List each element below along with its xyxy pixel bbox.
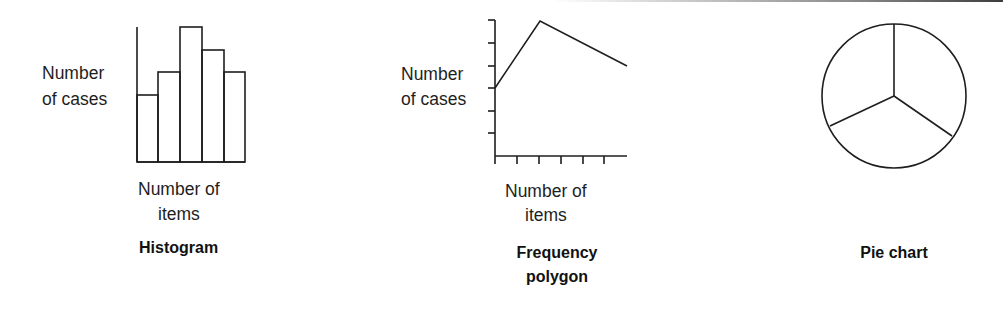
histogram-ylabel-line2: of cases	[42, 87, 107, 112]
polygon-y-ticks	[488, 20, 495, 133]
histogram-xlabel-line1: Number of	[138, 177, 220, 202]
histogram-bar-2	[158, 72, 180, 162]
polygon-title-line1: Frequency	[505, 240, 609, 265]
pie-title: Pie chart	[844, 240, 944, 265]
polygon-ylabel-line2: of cases	[401, 87, 466, 112]
pie-chart	[822, 24, 966, 168]
histogram-bar-3	[180, 27, 202, 162]
polygon-title-line2: polygon	[505, 264, 609, 289]
polygon-ylabel-line1: Number	[401, 62, 463, 87]
histogram-bar-4	[202, 50, 224, 162]
polygon-xlabel-line1: Number of	[505, 179, 587, 204]
histogram-title: Histogram	[139, 235, 218, 260]
histogram-ylabel-line1: Number	[42, 61, 104, 86]
histogram-chart	[137, 27, 245, 162]
frequency-polygon-chart	[488, 20, 627, 164]
histogram-bar-5	[224, 72, 245, 162]
pie-spoke-left	[830, 96, 894, 126]
polygon-xlabel-line2: items	[525, 203, 567, 228]
polygon-line	[495, 21, 627, 88]
figure-canvas	[0, 0, 1003, 312]
polygon-x-ticks	[517, 156, 604, 164]
histogram-bar-1	[137, 95, 158, 162]
pie-spoke-right	[894, 96, 952, 136]
histogram-xlabel-line2: items	[158, 202, 200, 227]
